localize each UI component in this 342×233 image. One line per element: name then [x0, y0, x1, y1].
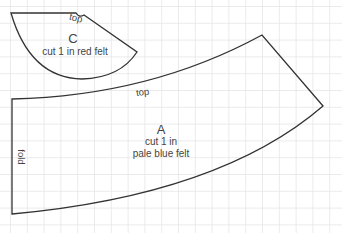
- grid-background: [0, 0, 342, 233]
- piece-c-letter: C: [68, 31, 77, 46]
- piece-a-top-label: top: [135, 86, 149, 99]
- piece-a-instruction-line2: pale blue felt: [133, 148, 190, 159]
- pattern-sheet: top C cut 1 in red felt top A cut 1 in p…: [0, 0, 342, 233]
- piece-a-letter: A: [157, 122, 166, 137]
- piece-c-instruction: cut 1 in red felt: [42, 46, 108, 57]
- piece-c-top-label: top: [68, 11, 83, 25]
- pattern-piece-c: top C cut 1 in red felt: [11, 11, 137, 79]
- piece-a-instruction-line1: cut 1 in: [145, 136, 177, 147]
- piece-a-fold-label: fold: [16, 149, 27, 164]
